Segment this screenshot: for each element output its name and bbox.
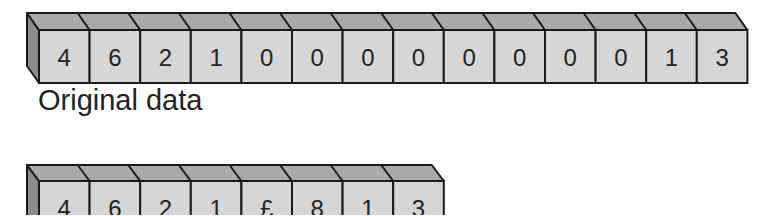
original-cell-value: 4: [58, 44, 71, 71]
compressed-data-cells: 4621£813: [0, 152, 783, 215]
original-cell-value: 0: [412, 44, 425, 71]
original-cell: 4: [39, 30, 90, 83]
original-cell-value: 6: [108, 44, 121, 71]
compressed-cell-value: 8: [311, 195, 324, 216]
original-cell-value: 2: [159, 44, 172, 71]
compressed-cell-value: 1: [361, 195, 374, 216]
original-cell-value: 0: [462, 44, 475, 71]
original-cell-value: 1: [665, 44, 678, 71]
original-cell-value: 0: [614, 44, 627, 71]
original-cell-value: 0: [361, 44, 374, 71]
original-cell-value: 0: [513, 44, 526, 71]
original-cell-value: 1: [209, 44, 222, 71]
original-cell-value: 0: [564, 44, 577, 71]
compressed-cell-value: £: [260, 195, 273, 216]
original-cell-value: 3: [715, 44, 728, 71]
original-data-label: Original data: [38, 84, 202, 117]
compressed-cell-value: 1: [209, 195, 222, 216]
compressed-cell: 4: [39, 181, 90, 215]
original-cell-value: 0: [311, 44, 324, 71]
original-data-strip: 46210000000013: [0, 0, 783, 90]
original-data-cells: 46210000000013: [0, 0, 783, 90]
compressed-cell-value: 6: [108, 195, 121, 216]
compressed-cell-value: 2: [159, 195, 172, 216]
compressed-cell-value: 4: [58, 195, 71, 216]
compressed-cell-value: 3: [412, 195, 425, 216]
compressed-data-strip: 4621£813: [0, 152, 783, 215]
original-cell-value: 0: [260, 44, 273, 71]
